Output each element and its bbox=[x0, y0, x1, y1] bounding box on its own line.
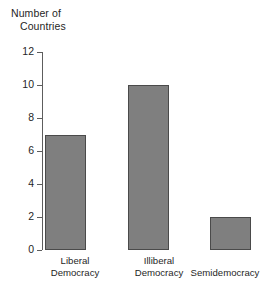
y-tick-label: 8 bbox=[28, 111, 34, 124]
y-tick-mark bbox=[37, 250, 42, 251]
y-tick-label: 4 bbox=[28, 177, 34, 190]
y-tick-label: 6 bbox=[28, 144, 34, 157]
bar-chart-figure: Number of Countries 12 10 8 6 4 bbox=[0, 0, 280, 295]
y-tick-label: 2 bbox=[28, 210, 34, 223]
y-tick-mark bbox=[37, 184, 42, 185]
y-tick-mark bbox=[37, 118, 42, 119]
bar-illiberal-democracy bbox=[128, 85, 169, 250]
y-tick-label: 10 bbox=[22, 78, 34, 91]
y-axis-title-line-2: Countries bbox=[11, 20, 66, 33]
bar-semidemocracy bbox=[210, 217, 251, 250]
bar-liberal-democracy bbox=[45, 135, 86, 251]
y-axis-title-line-1: Number of bbox=[11, 7, 61, 19]
plot-area: 12 10 8 6 4 2 0 bbox=[42, 52, 274, 250]
y-tick-label: 12 bbox=[22, 45, 34, 58]
y-tick-mark bbox=[37, 52, 42, 53]
y-tick-mark bbox=[37, 151, 42, 152]
y-axis-title: Number of Countries bbox=[11, 7, 66, 33]
x-category-label-line-1: Illiberal bbox=[104, 255, 214, 267]
x-category-label-line-1: Semidemocracy bbox=[175, 267, 275, 279]
x-category-label-semidemocracy: Semidemocracy bbox=[175, 267, 275, 279]
y-tick-mark bbox=[37, 85, 42, 86]
y-tick-mark bbox=[37, 217, 42, 218]
y-axis-line bbox=[42, 52, 43, 250]
